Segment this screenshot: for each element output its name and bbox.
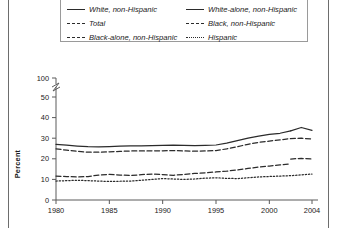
legend-item: White, non-Hispanic: [67, 3, 182, 15]
y-axis-tick-label: 40: [41, 113, 49, 122]
series-line: [291, 127, 312, 130]
legend-item: Black-alone, non-Hispanic: [67, 31, 182, 43]
legend-item-label: Black, non-Hispanic: [208, 19, 275, 28]
x-axis-tick-label: 2000: [261, 206, 277, 215]
legend-item-label: Black-alone, non-Hispanic: [89, 33, 177, 42]
x-axis-tick-label: 1980: [48, 206, 64, 215]
x-axis-tick-label: 2004: [304, 206, 320, 215]
legend-line-dashed-icon: [67, 20, 85, 27]
x-axis-tick-label: 1995: [208, 206, 224, 215]
legend-item-label: White, non-Hispanic: [89, 5, 157, 14]
legend-item: White-alone, non-Hispanic: [186, 3, 301, 15]
y-axis-tick-label: 50: [41, 93, 49, 102]
y-axis-tick-label: 10: [41, 175, 49, 184]
x-axis-tick-label: 1985: [101, 206, 117, 215]
legend-item-label: Total: [89, 19, 105, 28]
chart-legend: White, non-HispanicWhite-alone, non-Hisp…: [60, 0, 308, 42]
chart-figure: White, non-HispanicWhite-alone, non-Hisp…: [0, 0, 337, 228]
chart-canvas: 01020304050100198019851990199520002004: [0, 56, 337, 228]
legend-line-dashed-icon: [186, 20, 204, 27]
legend-line-solid-icon: [67, 6, 85, 13]
legend-items: White, non-HispanicWhite-alone, non-Hisp…: [67, 3, 301, 43]
legend-line-dotted-icon: [186, 34, 204, 41]
y-axis-tick-label: 100: [37, 74, 49, 83]
legend-item: Black, non-Hispanic: [186, 17, 301, 29]
series-line: [291, 158, 312, 159]
series-line: [56, 164, 291, 177]
legend-item: Total: [67, 17, 182, 29]
legend-line-dashed-icon: [67, 34, 85, 41]
legend-item: Hispanic: [186, 31, 301, 43]
y-axis-tick-label: 20: [41, 154, 49, 163]
legend-line-solid-icon: [186, 6, 204, 13]
series-line: [56, 131, 291, 147]
legend-item-label: White-alone, non-Hispanic: [208, 5, 297, 14]
y-axis-break-icon: [52, 83, 60, 91]
plot-area: Percent 01020304050100198019851990199520…: [0, 56, 337, 228]
y-axis-tick-label: 30: [41, 134, 49, 143]
x-axis-tick-label: 1990: [154, 206, 170, 215]
y-axis-tick-label: 0: [45, 196, 49, 205]
legend-item-label: Hispanic: [208, 33, 237, 42]
